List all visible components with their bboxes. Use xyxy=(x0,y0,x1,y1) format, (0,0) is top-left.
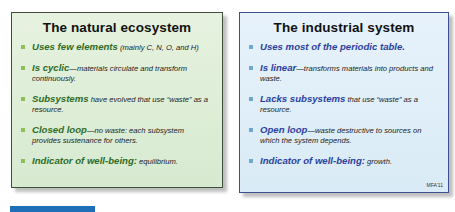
list-item: Lacks subsystems that use “waste” as a r… xyxy=(248,94,440,115)
item-key: Subsystems xyxy=(32,93,89,104)
industrial-system-panel: The industrial system Uses most of the p… xyxy=(239,12,449,193)
natural-panel-title: The natural ecosystem xyxy=(20,20,214,35)
square-bullet-icon xyxy=(21,66,25,70)
square-bullet-icon xyxy=(21,97,25,101)
natural-list: Uses few elements (mainly C, N, O, and H… xyxy=(20,42,214,167)
square-bullet-icon xyxy=(249,45,253,49)
square-bullet-icon xyxy=(249,66,253,70)
bottom-accent-bar xyxy=(10,206,95,212)
list-item: Indicator of well-being: equilibrium. xyxy=(20,156,214,167)
square-bullet-icon xyxy=(21,45,25,49)
item-key: Uses few elements xyxy=(32,41,118,52)
list-item: Is cyclic—materials circulate and transf… xyxy=(20,63,214,84)
item-key: Is linear xyxy=(260,62,296,73)
item-key: Indicator of well-being: xyxy=(260,155,365,166)
item-key: Indicator of well-being: xyxy=(32,155,137,166)
list-item: Uses few elements (mainly C, N, O, and H… xyxy=(20,42,214,53)
item-text: (mainly C, N, O, and H) xyxy=(118,43,199,52)
item-key: Open loop xyxy=(260,124,307,135)
list-item: Uses most of the periodic table. xyxy=(248,42,440,53)
natural-ecosystem-panel: The natural ecosystem Uses few elements … xyxy=(11,12,223,188)
item-text: equilibrium. xyxy=(137,157,178,166)
item-key: Is cyclic xyxy=(32,62,69,73)
square-bullet-icon xyxy=(21,128,25,132)
item-key: Lacks subsystems xyxy=(260,93,345,104)
industrial-list: Uses most of the periodic table. Is line… xyxy=(248,42,440,167)
item-key: Uses most of the periodic table. xyxy=(260,41,405,52)
list-item: Indicator of well-being: growth. xyxy=(248,156,440,167)
square-bullet-icon xyxy=(249,97,253,101)
item-text: growth. xyxy=(365,157,392,166)
industrial-panel-title: The industrial system xyxy=(248,20,440,35)
square-bullet-icon xyxy=(21,159,25,163)
list-item: Is linear—transforms materials into prod… xyxy=(248,63,440,84)
square-bullet-icon xyxy=(249,159,253,163)
list-item: Closed loop—no waste: each subsystem pro… xyxy=(20,125,214,146)
square-bullet-icon xyxy=(249,128,253,132)
list-item: Open loop—waste destructive to sources o… xyxy=(248,125,440,146)
item-key: Closed loop xyxy=(32,124,87,135)
source-tag: MFA'11 xyxy=(427,182,443,188)
list-item: Subsystems have evolved that use “waste”… xyxy=(20,94,214,115)
